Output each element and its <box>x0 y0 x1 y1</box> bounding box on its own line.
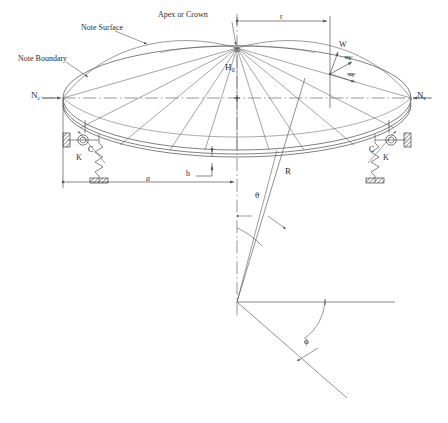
label-angle-phi: ϕ <box>304 337 309 346</box>
label-H0: H0 <box>225 63 235 73</box>
label-note-surface: Note Surface <box>81 24 123 32</box>
label-thickness-h: h <box>186 170 190 178</box>
nc-right-subscript: c <box>424 94 427 101</box>
dimension-h <box>196 146 212 176</box>
u-phi-subscript: ϕ <box>349 56 352 61</box>
u-theta-subscript: θ <box>352 73 354 78</box>
leader-note-surface <box>115 31 147 44</box>
dimension-r <box>237 14 330 108</box>
leader-apex <box>232 22 236 45</box>
label-displacement-u-phi: uϕ <box>345 54 351 61</box>
h0-subscript: 0 <box>232 66 235 73</box>
label-note-boundary: Note Boundary <box>18 55 67 63</box>
label-displacement-u-theta: uθ <box>348 71 354 78</box>
axis-center-ticks <box>234 95 240 101</box>
label-nc-right: Nc <box>417 91 426 101</box>
label-apex-or-crown: Apex or Crown <box>158 11 208 19</box>
label-angle-theta: θ <box>255 191 259 200</box>
label-spring-right-K: K <box>383 154 389 162</box>
label-dimension-a: a <box>146 175 150 183</box>
label-spring-left-K: K <box>76 154 82 162</box>
label-dimension-r: r <box>280 13 283 21</box>
leader-note-boundary <box>66 62 88 77</box>
label-damper-left-C: C <box>88 146 93 154</box>
label-radius-R: R <box>285 167 291 176</box>
label-damper-right-C: C <box>369 146 374 154</box>
label-displacement-W: W <box>339 41 347 49</box>
support-left <box>63 120 108 183</box>
phi-angle-arc <box>297 299 325 361</box>
diagram-canvas: Note Boundary Note Surface Apex or Crown… <box>0 0 448 423</box>
nc-left-subscript: c <box>38 94 41 101</box>
label-nc-left: Nc <box>31 91 40 101</box>
shell-diagram-svg <box>0 0 448 423</box>
